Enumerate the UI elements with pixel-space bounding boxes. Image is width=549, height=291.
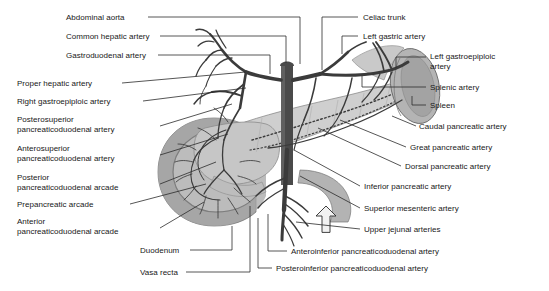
leader-dorsal-pancreatic-artery bbox=[318, 128, 401, 166]
label-posteroinferior-pd-artery: Posteroinferior pancreaticoduodenal arte… bbox=[276, 264, 428, 274]
leader-proper-hepatic-artery bbox=[122, 72, 246, 83]
label-vasa-recta: Vasa recta bbox=[140, 268, 178, 278]
label-splenic-artery: Splenic artery bbox=[430, 83, 479, 93]
label-celiac-trunk: Celiac trunk bbox=[363, 13, 405, 23]
label-prepancreatic-arcade: Prepancreatic arcade bbox=[17, 200, 93, 210]
label-spleen: Spleen bbox=[430, 101, 455, 111]
leader-duodenum bbox=[190, 226, 232, 250]
gastroduodenal-artery bbox=[240, 72, 246, 108]
label-posterior-pd-arcade: Posterior pancreaticoduodenal arcade bbox=[17, 173, 119, 192]
label-great-pancreatic-artery: Great pancreatic artery bbox=[410, 143, 492, 153]
common-hepatic-artery bbox=[246, 72, 281, 80]
leader-abdominal-aorta bbox=[148, 17, 300, 64]
label-duodenum: Duodenum bbox=[140, 246, 179, 256]
label-left-gastric-artery: Left gastric artery bbox=[363, 32, 425, 42]
upper-jejunal-arteries bbox=[283, 196, 308, 246]
label-right-gastroepiploic-artery: Right gastroepiploic artery bbox=[17, 97, 110, 107]
label-proper-hepatic-artery: Proper hepatic artery bbox=[17, 79, 92, 89]
label-abdominal-aorta: Abdominal aorta bbox=[66, 13, 125, 23]
leader-celiac-trunk bbox=[322, 17, 358, 70]
label-anteroinferior-pd-artery: Anteroinferior pancreaticoduodenal arter… bbox=[291, 247, 439, 257]
organs-group bbox=[158, 44, 446, 226]
label-posterosuperior-pd-artery: Posterosuperior pancreaticoduodenal arte… bbox=[17, 115, 114, 134]
label-anterior-pd-arcade: Anterior pancreaticoduodenal arcade bbox=[17, 217, 119, 236]
leader-right-gastroepiploic-artery bbox=[143, 88, 246, 101]
label-anterosuperior-pd-artery: Anterosuperior pancreaticoduodenal arter… bbox=[17, 144, 114, 163]
label-left-gastroepiploic-artery: Left gastroepiploic artery bbox=[430, 52, 495, 71]
label-caudal-pancreatic-artery: Caudal pancreatic artery bbox=[419, 122, 507, 132]
leader-gastroduodenal-artery bbox=[158, 55, 270, 74]
label-common-hepatic-artery: Common hepatic artery bbox=[66, 32, 150, 42]
leader-posteroinferior-pd-artery bbox=[258, 218, 272, 268]
label-superior-mesenteric-artery: Superior mesenteric artery bbox=[364, 204, 459, 214]
label-dorsal-pancreatic-artery: Dorsal pancreatic artery bbox=[405, 162, 490, 172]
proper-hepatic-artery bbox=[196, 29, 246, 104]
label-upper-jejunal-arteries: Upper jejunal arteries bbox=[364, 225, 440, 235]
label-inferior-pancreatic-artery: Inferior pancreatic artery bbox=[364, 182, 451, 192]
label-gastroduodenal-artery: Gastroduodenal artery bbox=[66, 51, 146, 61]
